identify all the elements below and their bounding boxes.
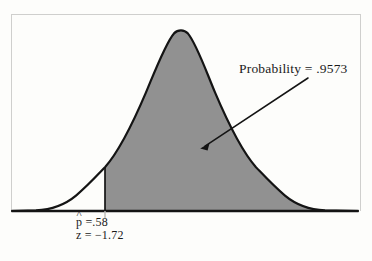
p-hat-symbol: ^p =.58 (76, 216, 108, 229)
normal-curve-figure: Probability = .9573 ^p =.58 z = −1.72 (0, 0, 372, 261)
hat-accent-icon: ^ (77, 209, 82, 220)
threshold-annotation: ^p =.58 z = −1.72 (76, 216, 124, 241)
p-hat-label-line: ^p =.58 (76, 216, 124, 229)
probability-annotation: Probability = .9573 (239, 61, 348, 77)
shaded-probability-area (12, 30, 358, 211)
distribution-plot (0, 0, 372, 261)
z-label-line: z = −1.72 (76, 229, 124, 242)
